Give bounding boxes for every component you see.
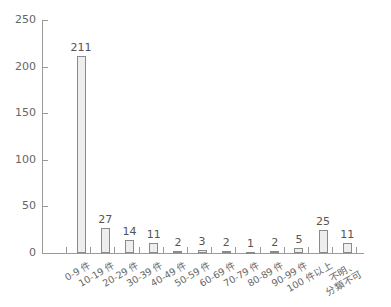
bar [149, 243, 158, 253]
x-tick-mark [356, 247, 357, 253]
bar-value-label: 5 [284, 234, 314, 246]
bar [77, 56, 86, 253]
y-tick-label: 100 [6, 154, 36, 166]
y-tick-mark [42, 160, 48, 161]
bar-chart: 050100150200250 2110-9 件2710-19 件1420-29… [0, 0, 391, 307]
bar [294, 248, 303, 253]
y-tick-mark [42, 67, 48, 68]
bar [173, 251, 182, 253]
x-tick-mark [308, 247, 309, 253]
y-tick-label: 250 [6, 14, 36, 26]
bar [246, 252, 255, 254]
y-tick-label: 50 [6, 200, 36, 212]
bar [125, 240, 134, 253]
bar [270, 251, 279, 253]
x-tick-mark [114, 247, 115, 253]
bar-value-label: 27 [90, 214, 120, 226]
bar [222, 251, 231, 253]
x-tick-mark [332, 247, 333, 253]
bar-value-label: 25 [308, 216, 338, 228]
x-tick-mark [139, 247, 140, 253]
bar [101, 228, 110, 253]
bar-value-label: 11 [332, 229, 362, 241]
x-tick-mark [66, 247, 67, 253]
x-tick-mark [90, 247, 91, 253]
y-tick-mark [42, 206, 48, 207]
y-tick-label: 0 [6, 247, 36, 259]
y-tick-label: 200 [6, 61, 36, 73]
y-axis-line [42, 20, 43, 254]
y-tick-mark [42, 20, 48, 21]
bar [198, 250, 207, 253]
y-tick-mark [42, 113, 48, 114]
x-tick-mark [284, 247, 285, 253]
bar-value-label: 211 [66, 42, 96, 54]
bar [319, 230, 328, 253]
y-tick-mark [42, 253, 48, 254]
y-tick-label: 150 [6, 107, 36, 119]
x-axis-line [42, 253, 364, 254]
bar [343, 243, 352, 253]
